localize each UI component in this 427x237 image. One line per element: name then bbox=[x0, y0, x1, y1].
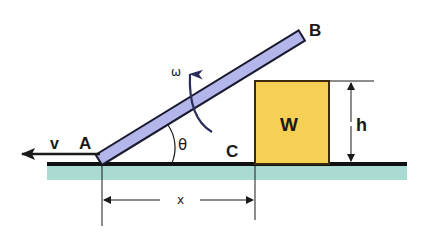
ground-fill bbox=[47, 166, 407, 180]
label-theta: θ bbox=[178, 136, 187, 154]
label-w: W bbox=[280, 114, 298, 135]
theta-arc bbox=[168, 125, 175, 163]
label-h: h bbox=[356, 115, 367, 135]
label-c: C bbox=[226, 142, 238, 161]
label-x: x bbox=[177, 193, 184, 207]
ladder-block-diagram: v A B C W h θ ω x bbox=[0, 0, 427, 237]
label-b: B bbox=[309, 21, 321, 40]
label-omega: ω bbox=[171, 65, 181, 79]
label-a: A bbox=[79, 134, 91, 153]
label-v: v bbox=[50, 135, 59, 152]
